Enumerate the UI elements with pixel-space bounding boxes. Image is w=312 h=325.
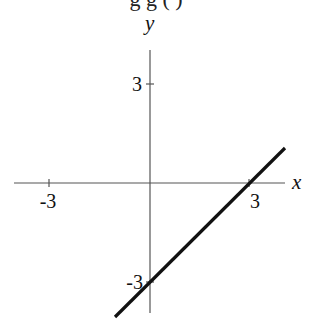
- x-tick-label-3: 3: [250, 190, 260, 212]
- coordinate-plane: -3 3 3 -3 x y: [0, 0, 312, 325]
- y-tick-label-3: 3: [132, 73, 142, 95]
- x-axis-label: x: [291, 170, 302, 194]
- y-axis-label: y: [143, 11, 155, 35]
- x-tick-label-neg3: -3: [40, 190, 57, 212]
- line-y-equals-x-minus-3: [115, 148, 285, 317]
